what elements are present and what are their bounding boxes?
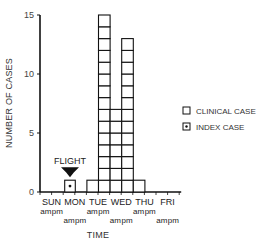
pm-label: pm	[52, 207, 63, 216]
y-tick-label: 0	[29, 187, 34, 197]
day-label: MON	[64, 197, 85, 207]
flight-arrow-icon	[61, 167, 79, 177]
am-label: am	[40, 207, 51, 216]
clinical-case-box	[122, 74, 134, 86]
am-label: am	[110, 216, 121, 225]
clinical-case-box	[99, 86, 111, 98]
day-label: FRI	[160, 197, 175, 207]
clinical-case-box	[110, 168, 122, 180]
clinical-case-box	[110, 180, 122, 192]
clinical-case-box	[99, 50, 111, 62]
flight-annotation: FLIGHT	[54, 156, 87, 177]
clinical-case-box	[122, 168, 134, 180]
clinical-case-box	[87, 180, 99, 192]
clinical-case-box	[110, 133, 122, 145]
clinical-case-box	[122, 133, 134, 145]
clinical-case-box	[122, 86, 134, 98]
clinical-case-box	[99, 180, 111, 192]
clinical-case-box	[110, 145, 122, 157]
flight-label: FLIGHT	[54, 156, 87, 166]
pm-label: pm	[98, 207, 109, 216]
clinical-case-box	[110, 157, 122, 169]
y-tick-label: 5	[29, 128, 34, 138]
legend-label: CLINICAL CASE	[196, 107, 256, 116]
x-tick-labels: SUNampmMONampmTUEampmWEDampmTHUampmFRIam…	[40, 197, 179, 225]
clinical-case-box	[122, 157, 134, 169]
clinical-case-box	[99, 27, 111, 39]
day-label: THU	[135, 197, 154, 207]
clinical-case-box	[99, 145, 111, 157]
clinical-case-box	[122, 145, 134, 157]
clinical-case-box	[110, 109, 122, 121]
pm-label: pm	[121, 216, 132, 225]
legend: CLINICAL CASEINDEX CASE	[183, 107, 256, 132]
day-label: TUE	[89, 197, 107, 207]
day-label: SUN	[42, 197, 61, 207]
index-case-dot	[69, 185, 72, 188]
clinical-case-box	[122, 109, 134, 121]
clinical-case-box	[99, 168, 111, 180]
clinical-case-box	[99, 109, 111, 121]
clinical-case-box	[122, 62, 134, 74]
pm-label: pm	[75, 216, 86, 225]
am-label: am	[156, 216, 167, 225]
pm-label: pm	[145, 207, 156, 216]
y-axis-label: NUMBER OF CASES	[4, 58, 14, 148]
clinical-case-box	[99, 74, 111, 86]
clinical-case-box	[122, 39, 134, 51]
pm-label: pm	[168, 216, 179, 225]
am-label: am	[133, 207, 144, 216]
clinical-case-box	[122, 180, 134, 192]
legend-label: INDEX CASE	[196, 123, 244, 132]
clinical-case-box	[99, 133, 111, 145]
clinical-case-box	[110, 121, 122, 133]
clinical-case-box	[122, 98, 134, 110]
clinical-case-box	[99, 121, 111, 133]
clinical-case-box	[99, 98, 111, 110]
clinical-case-box	[133, 180, 145, 192]
x-axis-label: TIME	[87, 230, 109, 240]
clinical-case-box	[122, 50, 134, 62]
y-tick-label: 10	[24, 69, 34, 79]
am-label: am	[87, 207, 98, 216]
day-label: WED	[111, 197, 132, 207]
y-tick-label: 15	[24, 10, 34, 20]
clinical-case-box	[122, 121, 134, 133]
clinical-case-box	[99, 39, 111, 51]
clinical-case-box	[99, 15, 111, 27]
clinical-case-box	[99, 62, 111, 74]
legend-dot	[185, 125, 187, 127]
legend-swatch-clinical	[183, 107, 190, 114]
clinical-case-box	[99, 157, 111, 169]
epidemic-curve-chart: 051015 SUNampmMONampmTUEampmWEDampmTHUam…	[0, 0, 260, 247]
am-label: am	[63, 216, 74, 225]
